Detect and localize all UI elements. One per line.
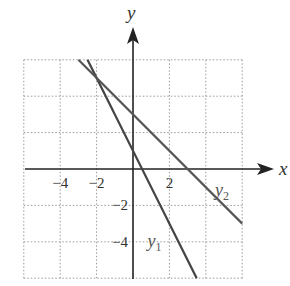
y-tick-label: −4: [112, 234, 128, 250]
x-axis-label: x: [278, 158, 288, 179]
chart: x y −4−22−2−4 y1y2: [0, 0, 290, 286]
y-axis-label: y: [125, 2, 136, 23]
x-tick-label: −2: [89, 175, 105, 191]
y-tick-label: −2: [112, 197, 128, 213]
x-tick-label: −4: [52, 175, 68, 191]
axes: x y: [25, 2, 288, 279]
x-tick-label: 2: [166, 175, 174, 191]
series-labels: y1y2: [146, 180, 229, 254]
series-label-y2: y2: [213, 180, 229, 203]
series-label-y1: y1: [146, 231, 162, 254]
